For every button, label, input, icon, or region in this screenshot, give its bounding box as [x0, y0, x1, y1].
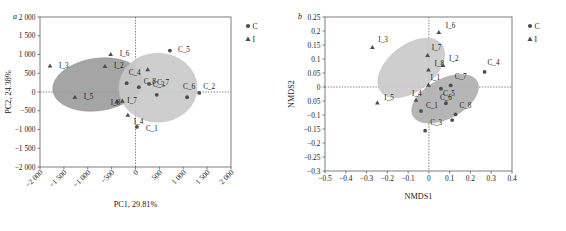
point-label-i_3: I_3: [378, 36, 388, 44]
legend-triangle-marker: [245, 37, 250, 41]
point-label-c_5: C_5: [178, 46, 190, 54]
data-point-c_3: [155, 93, 159, 97]
point-label-i_7: I_7: [127, 97, 137, 105]
x-tick-label: −1 000: [71, 168, 92, 189]
point-label-c_4: C_4: [129, 69, 141, 77]
legend-label-c: C: [535, 22, 540, 31]
data-point-c_1: [419, 109, 423, 113]
nmds-plot-svg: b−0.5−0.4−0.3−0.2−0.100.10.20.30.4−0.3−0…: [283, 0, 566, 231]
point-label-i_5: I_5: [84, 93, 94, 101]
data-point-c_3: [423, 129, 427, 133]
point-label-c_7: C_7: [455, 73, 467, 81]
x-tick-label: 0.4: [507, 174, 517, 183]
point-label-c_3: C_3: [430, 119, 442, 127]
x-tick-label: 0.3: [487, 174, 497, 183]
legend-label-i: I: [535, 35, 538, 44]
pca-plot-svg: a−2 000−1 500−1 000−50005001 0001 5002 0…: [0, 0, 283, 231]
y-tick-label: 500: [24, 69, 35, 78]
point-label-i_6: I_6: [446, 22, 456, 30]
y-tick-label: 0.05: [308, 97, 321, 106]
y-tick-label: −0.1: [307, 111, 321, 120]
data-point-c_2: [450, 118, 454, 122]
data-point-c_7: [449, 83, 453, 87]
y-tick-label: −500: [20, 106, 36, 115]
x-axis-title: PC1, 29.81%: [114, 200, 158, 209]
y-tick-label: 0.1: [311, 55, 321, 64]
x-tick-label: −1 500: [47, 168, 68, 189]
data-point-c_4: [483, 70, 487, 74]
x-tick-label: −0.4: [339, 174, 353, 183]
data-point-c_7: [147, 82, 151, 86]
point-label-i_4: I_4: [134, 118, 144, 126]
y-tick-label: 0.15: [308, 41, 321, 50]
x-tick-label: 1 500: [193, 168, 211, 186]
point-label-i_2: I_2: [114, 62, 124, 70]
x-tick-label: 1 000: [170, 168, 188, 186]
point-label-i_8: I_8: [111, 99, 121, 107]
point-label-c_4: C_4: [488, 59, 500, 67]
point-label-i_7: I_7: [432, 44, 442, 52]
legend-circle-marker: [246, 24, 250, 28]
x-tick-label: 2 000: [217, 168, 235, 186]
point-label-i_6: I_6: [120, 50, 130, 58]
point-label-c_1: C_1: [426, 102, 438, 110]
panel-a-pca: a−2 000−1 500−1 000−50005001 0001 5002 0…: [0, 0, 283, 231]
point-label-c_8: C_8: [459, 102, 471, 110]
x-tick-label: −0.1: [401, 174, 415, 183]
y-tick-label: −0.25: [303, 153, 320, 162]
point-label-i_4: I_4: [412, 90, 422, 98]
data-point-c_8: [137, 85, 141, 89]
x-tick-label: 500: [150, 168, 164, 182]
point-label-c_1: C_1: [146, 125, 158, 133]
x-tick-label: 0.2: [466, 174, 476, 183]
point-label-c_6: C_6: [440, 94, 452, 102]
y-tick-label: 0.2: [311, 27, 321, 36]
panel-b-nmds: b−0.5−0.4−0.3−0.2−0.100.10.20.30.4−0.3−0…: [283, 0, 566, 231]
y-tick-label: −0.15: [303, 125, 320, 134]
y-tick-label: 0: [317, 83, 321, 92]
point-label-i_3: I_3: [59, 62, 69, 70]
y-tick-label: 1 500: [19, 31, 36, 40]
y-tick-label: 0: [32, 88, 36, 97]
data-point-c_1: [135, 125, 139, 129]
y-tick-label: 1 000: [19, 50, 36, 59]
y-tick-label: 0.25: [308, 13, 321, 22]
data-point-c_8: [454, 113, 458, 117]
y-tick-label: −0.3: [307, 167, 321, 176]
y-tick-label: 2 000: [19, 13, 36, 22]
point-label-c_6: C_6: [183, 83, 195, 91]
y-axis-title: NMDS2: [287, 80, 296, 108]
legend-label-i: I: [253, 35, 256, 44]
data-point-c_6: [185, 95, 189, 99]
point-label-c_3: C_3: [153, 81, 165, 89]
x-tick-label: −0.3: [360, 174, 374, 183]
y-tick-label: −1 500: [15, 144, 36, 153]
data-point-c_4: [125, 81, 129, 85]
point-label-c_2: C_2: [203, 83, 215, 91]
legend-triangle-marker: [527, 37, 532, 41]
data-point-c_2: [197, 91, 201, 95]
y-tick-label: 0.05: [308, 69, 321, 78]
data-point-c_5: [168, 49, 172, 53]
y-tick-label: −1 000: [15, 125, 36, 134]
legend-circle-marker: [528, 24, 532, 28]
x-axis-title: NMDS1: [405, 192, 433, 201]
x-tick-label: −0.2: [381, 174, 395, 183]
x-tick-label: −500: [99, 168, 116, 185]
y-tick-label: −0.2: [307, 139, 321, 148]
x-tick-label: 0: [427, 174, 431, 183]
panel-letter: a: [13, 12, 17, 21]
panel-letter: b: [298, 12, 302, 21]
x-tick-label: 0.1: [445, 174, 455, 183]
point-label-i_5: I_5: [384, 94, 394, 102]
y-axis-title: PC2, 24.38%: [4, 70, 13, 114]
figure-container: a−2 000−1 500−1 000−50005001 0001 5002 0…: [0, 0, 566, 231]
y-tick-label: −2 000: [15, 163, 36, 172]
point-label-i_2: I_2: [449, 55, 459, 63]
legend-label-c: C: [253, 22, 258, 31]
point-label-i_1: I_1: [430, 74, 440, 82]
